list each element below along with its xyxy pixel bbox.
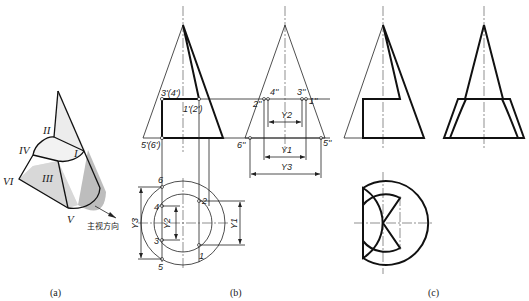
dimension-y1-top: Y1 [229,218,239,229]
point-label-1pp: 1'' [309,96,318,106]
point-label-6: 6 [158,175,163,185]
caption-a: (a) [50,287,61,299]
point-label-3: 3 [154,236,159,246]
face-label-VI: VI [3,175,15,187]
dimension-y3-side: Y3 [281,162,292,172]
top-view-b: 6 4 3 5 2 1 Y2 Y1 Y3 [130,175,245,272]
face-label-IV: IV [18,144,31,156]
caption-b: (b) [230,287,242,299]
caption-c: (c) [428,287,439,299]
side-view-c [444,6,524,148]
point-label-3p4p: 3'(4') [161,88,180,98]
point-label-1p2p: 1'(2') [183,104,202,114]
point-label-5: 5 [158,262,164,272]
point-label-5pp: 5'' [323,138,332,148]
point-label-5p6p: 5'(6') [141,140,160,150]
dimension-y2-top: Y2 [162,218,172,229]
point-label-2: 2 [201,196,207,206]
dimension-y3-top: Y3 [130,218,140,229]
point-label-6pp: 6'' [237,140,246,150]
projection-diagram: II IV I III VI V 主视方向 3'(4') 1'(2') 5'(6… [0,0,529,301]
view-direction-label: 主视方向 [87,221,119,231]
point-label-2pp: 2'' [252,99,262,109]
face-label-II: II [42,124,52,136]
top-view-c [354,172,434,274]
front-view-c [344,6,424,148]
point-label-4pp: 4'' [270,87,279,97]
point-label-4: 4 [154,202,159,212]
face-label-V: V [67,213,75,225]
dimension-y1-side: Y1 [281,145,292,155]
dimension-y2-side: Y2 [281,110,292,120]
isometric-view: II IV I III VI V 主视方向 [3,91,119,231]
face-label-III: III [41,172,54,184]
side-view-b: 4'' 3'' 2'' 1'' 6'' 5'' Y2 Y1 Y3 [237,6,332,178]
point-label-1: 1 [199,251,204,261]
point-label-3pp: 3'' [297,87,306,97]
